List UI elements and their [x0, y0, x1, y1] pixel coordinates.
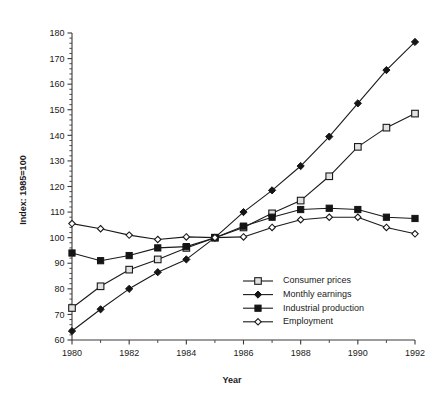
data-point-open-diamond — [255, 319, 261, 325]
data-point-open-diamond — [183, 234, 189, 240]
data-point-open-square — [126, 266, 133, 273]
legend-label: Monthly earnings — [283, 289, 352, 299]
data-point-filled-square — [126, 252, 132, 258]
legend-item-industrial-production[interactable]: Industrial production — [243, 303, 364, 313]
chart-legend: Consumer pricesMonthly earningsIndustria… — [243, 275, 364, 326]
data-point-open-diamond — [240, 234, 246, 240]
data-point-open-diamond — [412, 231, 418, 237]
legend-item-monthly-earnings[interactable]: Monthly earnings — [243, 289, 352, 299]
data-point-open-diamond — [269, 224, 275, 230]
y-tick-label: 60 — [54, 335, 64, 345]
x-axis-tick-labels: 1980198219841986198819901992 — [62, 348, 425, 358]
data-point-open-diamond — [126, 232, 132, 238]
y-tick-label: 170 — [49, 54, 64, 64]
series-layer — [68, 38, 418, 334]
x-tick-label: 1988 — [291, 348, 311, 358]
data-point-open-diamond — [155, 236, 161, 242]
data-point-open-square — [326, 173, 333, 180]
data-point-filled-diamond — [126, 285, 133, 292]
x-tick-label: 1992 — [405, 348, 425, 358]
data-point-open-square — [297, 197, 304, 204]
y-tick-label: 100 — [49, 233, 64, 243]
y-tick-label: 180 — [49, 28, 64, 38]
legend-item-employment[interactable]: Employment — [243, 316, 334, 326]
y-tick-label: 90 — [54, 258, 64, 268]
line-chart: Index: 1985=100 Year 6070809010011012013… — [0, 0, 439, 397]
x-tick-label: 1990 — [348, 348, 368, 358]
legend-item-consumer-prices[interactable]: Consumer prices — [243, 275, 352, 285]
data-point-open-square — [154, 256, 161, 263]
data-point-open-diamond — [383, 224, 389, 230]
data-point-filled-diamond — [254, 291, 261, 298]
x-tick-label: 1986 — [233, 348, 253, 358]
data-point-filled-square — [355, 206, 361, 212]
data-point-open-diamond — [326, 214, 332, 220]
x-tick-label: 1980 — [62, 348, 82, 358]
chart-container: Index: 1985=100 Year 6070809010011012013… — [0, 0, 439, 397]
legend-label: Industrial production — [283, 303, 364, 313]
data-point-filled-square — [298, 206, 304, 212]
data-point-open-square — [383, 124, 390, 131]
data-point-filled-square — [183, 244, 189, 250]
x-axis-title-text: Year — [222, 375, 242, 385]
data-point-filled-square — [269, 214, 275, 220]
data-point-filled-square — [69, 250, 75, 256]
legend-label: Consumer prices — [283, 275, 352, 285]
y-tick-label: 160 — [49, 79, 64, 89]
y-tick-label: 140 — [49, 131, 64, 141]
data-point-filled-square — [155, 245, 161, 251]
y-tick-label: 130 — [49, 156, 64, 166]
data-point-open-square — [97, 283, 104, 290]
data-point-filled-square — [97, 258, 103, 264]
data-point-open-square — [69, 305, 76, 312]
y-tick-label: 150 — [49, 105, 64, 115]
x-tick-label: 1982 — [119, 348, 139, 358]
data-point-filled-diamond — [154, 269, 161, 276]
data-point-filled-square — [412, 215, 418, 221]
legend-label: Employment — [283, 316, 334, 326]
series-monthly-earnings — [68, 38, 418, 334]
data-point-open-diamond — [69, 220, 75, 226]
x-tick-label: 1984 — [176, 348, 196, 358]
y-axis-tick-labels: 60708090100110120130140150160170180 — [49, 28, 64, 345]
data-point-open-diamond — [355, 214, 361, 220]
data-point-filled-square — [326, 205, 332, 211]
y-tick-label: 120 — [49, 182, 64, 192]
data-point-open-square — [255, 278, 262, 285]
y-tick-label: 70 — [54, 310, 64, 320]
y-axis-title: Index: 1985=100 — [18, 155, 28, 224]
data-point-filled-square — [240, 223, 246, 229]
data-point-open-square — [412, 110, 419, 117]
data-point-filled-square — [383, 214, 389, 220]
y-tick-label: 80 — [54, 284, 64, 294]
data-point-open-square — [355, 144, 362, 151]
data-point-filled-square — [255, 305, 261, 311]
data-point-open-diamond — [297, 217, 303, 223]
y-axis-title-text: Index: 1985=100 — [18, 155, 28, 224]
y-tick-label: 110 — [50, 207, 64, 217]
data-point-open-diamond — [97, 226, 103, 232]
x-axis-ticks — [72, 340, 415, 345]
y-axis-ticks — [68, 33, 73, 340]
